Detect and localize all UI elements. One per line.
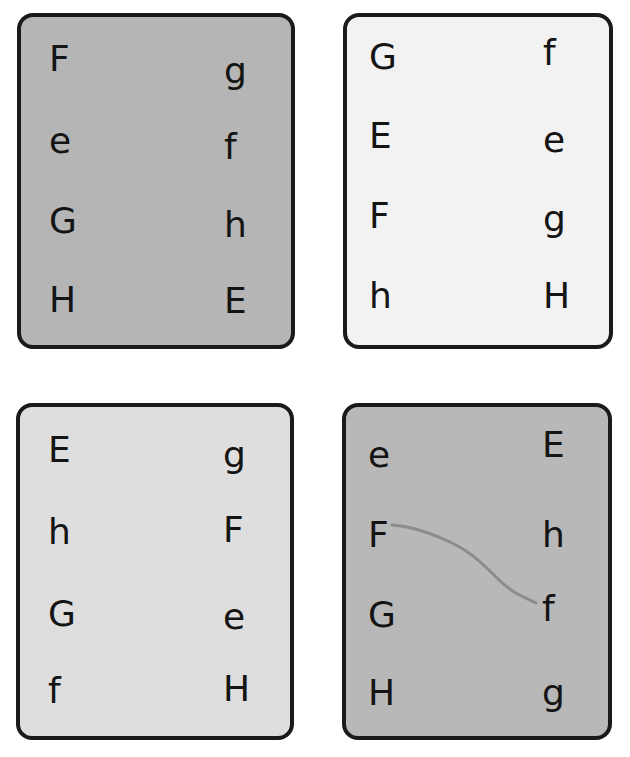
letter-left-1[interactable]: E <box>48 432 71 468</box>
letter-right-3[interactable]: e <box>223 599 245 635</box>
letter-right-4[interactable]: E <box>224 283 247 319</box>
letter-left-4[interactable]: f <box>48 673 61 709</box>
letter-left-1[interactable]: e <box>368 437 390 473</box>
letter-left-4[interactable]: H <box>49 282 76 318</box>
letter-left-2[interactable]: E <box>369 118 392 154</box>
letter-left-3[interactable]: G <box>49 203 77 239</box>
letter-card-top-right[interactable]: G E F h f e g H <box>343 13 613 349</box>
letter-right-2[interactable]: f <box>224 129 237 165</box>
letter-left-1[interactable]: G <box>369 39 397 75</box>
letter-left-4[interactable]: h <box>369 278 392 314</box>
card-inner-bottom-left: E h G f g F e H <box>20 407 290 736</box>
letter-left-3[interactable]: F <box>369 198 390 234</box>
letter-right-2[interactable]: e <box>543 122 565 158</box>
letter-right-1[interactable]: f <box>543 35 556 71</box>
letter-right-3[interactable]: g <box>543 201 566 237</box>
letter-right-2[interactable]: F <box>223 512 244 548</box>
letter-left-3[interactable]: G <box>48 596 76 632</box>
match-line-F-to-f <box>392 525 536 603</box>
letter-left-2[interactable]: e <box>49 123 71 159</box>
letter-right-1[interactable]: E <box>542 427 565 463</box>
letter-left-2[interactable]: F <box>368 517 389 553</box>
letter-right-2[interactable]: h <box>542 517 565 553</box>
letter-left-1[interactable]: F <box>49 41 70 77</box>
letter-right-3[interactable]: h <box>224 207 247 243</box>
letter-card-bottom-right[interactable]: e F G H E h f g <box>342 403 612 740</box>
letter-left-4[interactable]: H <box>368 675 395 711</box>
letter-left-3[interactable]: G <box>368 597 396 633</box>
letter-right-3[interactable]: f <box>542 591 555 627</box>
letter-right-4[interactable]: H <box>543 278 570 314</box>
letter-left-2[interactable]: h <box>48 514 71 550</box>
letter-right-1[interactable]: g <box>224 53 247 89</box>
letter-right-1[interactable]: g <box>223 437 246 473</box>
card-inner-top-right: G E F h f e g H <box>347 17 609 345</box>
card-inner-top-left: F e G H g f h E <box>21 17 291 345</box>
letter-card-bottom-left[interactable]: E h G f g F e H <box>16 403 294 740</box>
letter-right-4[interactable]: H <box>223 671 250 707</box>
letter-card-top-left[interactable]: F e G H g f h E <box>17 13 295 349</box>
card-inner-bottom-right: e F G H E h f g <box>346 407 608 736</box>
letter-right-4[interactable]: g <box>542 675 565 711</box>
worksheet-sheet: F e G H g f h E G E F h f e g H E h G f <box>0 0 630 757</box>
